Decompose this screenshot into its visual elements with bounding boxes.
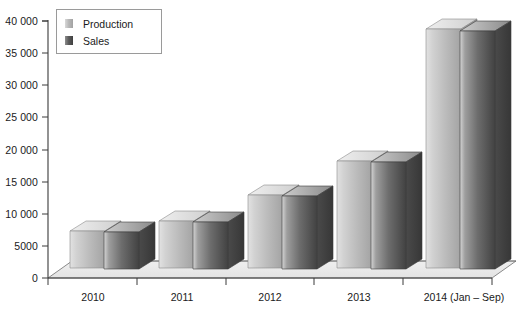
y-tick-label-25000: 25 000	[0, 111, 38, 123]
bar-group-2010	[70, 221, 155, 269]
chart-legend: Production Sales	[56, 9, 162, 54]
y-tick-label-5000: 5000	[0, 240, 38, 252]
bar-2012-sales[interactable]	[282, 186, 333, 269]
bar-2014-sales[interactable]	[460, 21, 511, 269]
y-tick-label-0: 0	[0, 272, 38, 284]
bar-2013-sales[interactable]	[371, 152, 422, 269]
x-category-label-2012: 2012	[244, 291, 296, 303]
y-tick-label-10000: 10 000	[0, 208, 38, 220]
bar-group-2013	[337, 151, 422, 269]
y-tick-label-15000: 15 000	[0, 176, 38, 188]
y-tick-label-20000: 20 000	[0, 144, 38, 156]
bar-group-2011	[159, 211, 244, 269]
legend-item-sales[interactable]: Sales	[65, 32, 161, 49]
legend-label-sales: Sales	[83, 35, 109, 47]
production-swatch-icon	[65, 19, 73, 28]
bar-group-2014	[426, 19, 511, 269]
bar-2010-sales[interactable]	[104, 222, 155, 269]
x-axis-ticks	[48, 278, 492, 285]
legend-label-production: Production	[83, 18, 133, 30]
x-category-label-2010: 2010	[67, 291, 119, 303]
legend-item-production[interactable]: Production	[65, 15, 161, 32]
y-tick-label-30000: 30 000	[0, 79, 38, 91]
sales-swatch-icon	[65, 36, 73, 45]
x-category-label-2013: 2013	[333, 291, 385, 303]
bar-2011-sales[interactable]	[193, 212, 244, 269]
y-axis-ticks	[42, 21, 48, 278]
bar-group-2012	[248, 185, 333, 269]
y-tick-label-40000: 40 000	[0, 15, 38, 27]
y-tick-label-35000: 35 000	[0, 47, 38, 59]
x-category-label-2011: 2011	[156, 291, 208, 303]
x-category-label-2014: 2014 (Jan – Sep)	[410, 291, 518, 303]
